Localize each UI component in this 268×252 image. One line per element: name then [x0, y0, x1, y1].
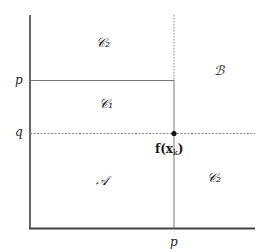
diagram-canvas: p q p 𝒞₂ 𝒞₁ ℬ 𝒜 𝒞₂ f(xk) [0, 0, 268, 252]
region-a: 𝒜 [96, 173, 112, 188]
y-label-p: p [15, 73, 23, 87]
region-c2-right: 𝒞₂ [207, 170, 221, 185]
y-label-q: q [15, 125, 23, 139]
point-label-close: ) [178, 142, 184, 156]
x-label-p: p [170, 235, 178, 249]
region-c2-top: 𝒞₂ [96, 35, 110, 50]
fxk-point [171, 131, 176, 136]
region-c1: 𝒞₁ [99, 96, 113, 111]
point-label-main: f(x [155, 142, 174, 156]
region-b: ℬ [214, 63, 225, 78]
point-label: f(xk) [155, 142, 184, 157]
